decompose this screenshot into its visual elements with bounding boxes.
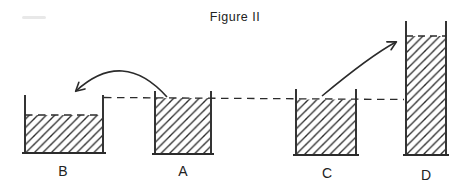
beaker-c-label: C: [322, 165, 332, 181]
beaker-d: [403, 21, 449, 155]
beaker-c-liquid: [297, 100, 355, 155]
beaker-a: [152, 91, 214, 154]
beaker-d-label: D: [421, 167, 431, 183]
beaker-b-label: B: [58, 163, 67, 179]
water-level-reference-line: [104, 98, 404, 100]
beaker-b-liquid: [26, 115, 102, 152]
flow-arrow-c-to-d-icon: [322, 42, 396, 96]
scan-artifact: [22, 16, 46, 19]
beaker-a-liquid: [156, 98, 210, 153]
beaker-b: [22, 95, 106, 153]
beaker-a-label: A: [178, 163, 188, 179]
figure-ii: Figure II B A C: [0, 0, 468, 193]
figure-title: Figure II: [210, 10, 260, 24]
flow-arrow-a-to-b-icon: [76, 71, 167, 97]
figure-ii-diagram: Figure II B A C: [0, 0, 468, 193]
beaker-d-liquid: [407, 36, 445, 154]
